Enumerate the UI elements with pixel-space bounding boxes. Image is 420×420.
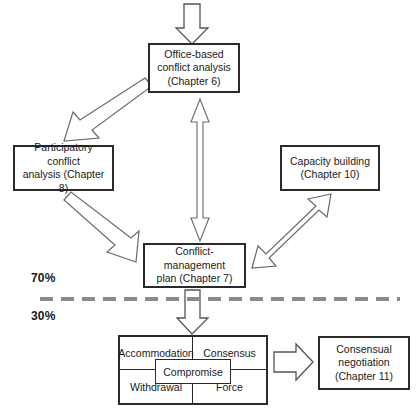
node-conflict-management-plan[interactable]: Conflict-management plan (Chapter 7) — [143, 243, 246, 288]
node-conflict-management-plan-text: Conflict-management plan (Chapter 7) — [145, 245, 244, 286]
block-arrow-right-to-negotiation — [274, 344, 313, 380]
block-arrow-down-top — [176, 4, 208, 44]
arrow-office-to-participatory — [64, 78, 152, 141]
node-office-based-line2: conflict analysis — [157, 61, 231, 75]
node-consensual-negotiation[interactable]: Consensual negotiation (Chapter 11) — [318, 336, 410, 390]
node-negotiation-line2: negotiation — [335, 356, 393, 370]
node-office-based-text: Office-based conflict analysis (Chapter … — [153, 48, 235, 89]
node-capacity-building-text: Capacity building (Chapter 10) — [286, 155, 374, 182]
node-plan-line1: Conflict-management — [149, 245, 240, 272]
node-participatory-conflict-analysis[interactable]: Participatory conflict analysis (Chapter… — [13, 145, 114, 191]
node-capacity-building-line1: Capacity building — [290, 155, 370, 169]
node-negotiation-line1: Consensual — [335, 343, 393, 357]
diagram-canvas: 70% 30% Office-based conflict analysis (… — [0, 0, 420, 420]
node-participatory-text: Participatory conflict analysis (Chapter… — [15, 141, 112, 195]
lower-percentage-label: 30% — [31, 309, 56, 323]
arrow-office-plan-double — [191, 99, 209, 241]
upper-percentage-label: 70% — [31, 271, 56, 285]
dashed-divider-line — [40, 297, 400, 301]
node-participatory-line1: Participatory conflict — [19, 141, 108, 168]
node-office-based-line3: (Chapter 6) — [157, 75, 231, 89]
node-office-based-line1: Office-based — [157, 48, 231, 62]
node-plan-line2: plan (Chapter 7) — [149, 272, 240, 286]
node-participatory-line2: analysis (Chapter 8) — [19, 168, 108, 195]
node-negotiation-line3: (Chapter 11) — [335, 370, 393, 384]
node-capacity-building[interactable]: Capacity building (Chapter 10) — [280, 145, 380, 191]
node-capacity-building-line2: (Chapter 10) — [290, 168, 370, 182]
node-office-based-conflict-analysis[interactable]: Office-based conflict analysis (Chapter … — [148, 43, 240, 93]
matrix-cell-compromise[interactable]: Compromise — [155, 359, 231, 384]
node-consensual-negotiation-text: Consensual negotiation (Chapter 11) — [331, 343, 397, 384]
arrow-capacity-plan-double — [252, 194, 331, 268]
arrow-participatory-to-plan — [64, 192, 139, 262]
